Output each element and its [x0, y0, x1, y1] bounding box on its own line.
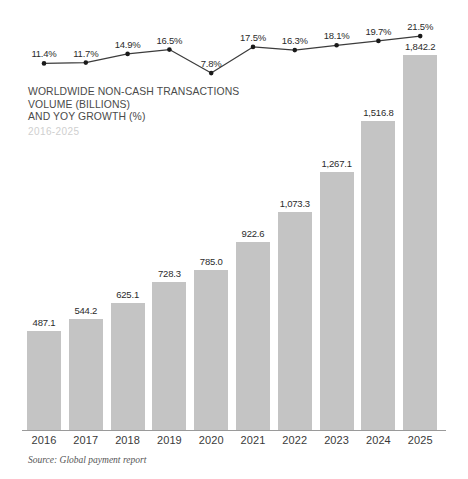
growth-marker-2024 [376, 39, 381, 44]
source-note: Source: Global payment report [28, 455, 146, 465]
growth-label-2025: 21.5% [390, 21, 450, 32]
year-label-2025: 2025 [395, 434, 445, 446]
growth-marker-2017 [84, 60, 89, 65]
bar-value-label-2024: 1,516.8 [344, 107, 412, 118]
bar-value-label-2018: 625.1 [94, 289, 162, 300]
growth-marker-2021 [251, 45, 256, 50]
chart-title-block: WORLDWIDE NON-CASH TRANSACTIONS VOLUME (… [28, 86, 258, 138]
bar-2023 [320, 172, 354, 430]
growth-marker-2025 [418, 34, 423, 39]
plot-area: 487.1544.2625.1728.3785.0922.61,073.31,2… [0, 0, 468, 440]
bar-2018 [111, 303, 145, 430]
chart-canvas: 487.1544.2625.1728.3785.0922.61,073.31,2… [0, 0, 468, 479]
x-axis-baseline [22, 430, 446, 431]
chart-title-line-1: WORLDWIDE NON-CASH TRANSACTIONS [28, 86, 258, 99]
growth-label-2020: 7.8% [181, 58, 241, 69]
bar-value-label-2025: 1,842.2 [386, 41, 454, 52]
growth-marker-2016 [42, 61, 47, 66]
bar-2016 [27, 331, 61, 430]
chart-title-line-2: VOLUME (BILLIONS) [28, 99, 258, 112]
bar-2022 [278, 212, 312, 430]
bar-2019 [152, 282, 186, 430]
growth-marker-2023 [334, 43, 339, 48]
chart-title-line-3: AND YOY GROWTH (%) [28, 111, 258, 124]
bar-value-label-2017: 544.2 [52, 305, 120, 316]
bar-value-label-2019: 728.3 [135, 268, 203, 279]
growth-marker-2018 [125, 52, 130, 57]
bar-2020 [194, 270, 228, 430]
growth-marker-2022 [293, 48, 298, 53]
growth-marker-2020 [209, 71, 214, 76]
growth-label-2019: 16.5% [139, 35, 199, 46]
growth-marker-2019 [167, 47, 172, 52]
chart-subtitle: 2016-2025 [28, 125, 258, 138]
bar-2021 [236, 242, 270, 430]
bar-value-label-2023: 1,267.1 [303, 158, 371, 169]
bar-value-label-2016: 487.1 [10, 317, 78, 328]
bar-2017 [69, 319, 103, 430]
bar-value-label-2021: 922.6 [219, 228, 287, 239]
bar-value-label-2022: 1,073.3 [261, 198, 329, 209]
bar-value-label-2020: 785.0 [177, 256, 245, 267]
